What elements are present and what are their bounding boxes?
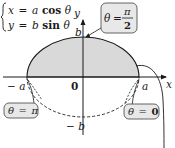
svg-text:θ = π: θ = π	[8, 105, 38, 116]
eq2-equals: =	[19, 19, 28, 31]
parametric-equations: x = a cos θ y = b sin θ	[1, 3, 72, 31]
neg-b-label: − b	[66, 120, 85, 132]
eq1-coef: a	[32, 4, 38, 16]
brace	[1, 3, 6, 31]
theta-symbol: θ	[104, 12, 111, 24]
leader-zero-dashed	[125, 80, 138, 103]
eq1-lhs: x	[8, 4, 14, 16]
eq2-lhs: y	[7, 19, 15, 31]
svg-text:x = a cos: x = a cos θ	[8, 4, 72, 16]
leader-pi-solid	[27, 79, 34, 103]
theta-symbol: θ	[8, 105, 14, 116]
callout-theta-half-pi: θ = π 2	[101, 3, 137, 33]
origin-label: 0	[71, 80, 78, 92]
leader-half-pi	[86, 28, 101, 37]
eq1-func: cos	[42, 4, 61, 16]
neg-a-label: − a	[7, 80, 25, 92]
eq2-coef: b	[32, 19, 39, 31]
equals-sign: =	[19, 105, 27, 116]
equals-sign: =	[139, 106, 147, 117]
eq2-var: θ	[64, 19, 71, 31]
y-axis-label: y	[73, 7, 81, 19]
ellipse-parametric-diagram: x = a cos θ y = b sin θ y x 0 b − a a − …	[0, 0, 175, 148]
eq1-equals: =	[19, 4, 28, 16]
equals-sign: =	[113, 12, 122, 24]
svg-text:y = b sin: y = b sin θ	[7, 19, 71, 31]
fraction-denominator: 2	[124, 20, 131, 31]
theta-value: 0	[151, 106, 158, 117]
fraction-numerator: π	[123, 6, 131, 17]
theta-symbol: θ	[128, 106, 134, 117]
eq2-func: sin	[42, 19, 60, 31]
eq1-var: θ	[65, 4, 72, 16]
theta-value: π	[30, 105, 38, 116]
x-axis-label: x	[166, 78, 172, 90]
a-label: a	[142, 80, 148, 92]
callout-theta-zero: θ = 0	[124, 104, 159, 119]
svg-text:θ = 0: θ = 0	[128, 106, 158, 117]
callout-theta-pi: θ = π	[4, 103, 38, 118]
b-label: b	[75, 26, 82, 38]
